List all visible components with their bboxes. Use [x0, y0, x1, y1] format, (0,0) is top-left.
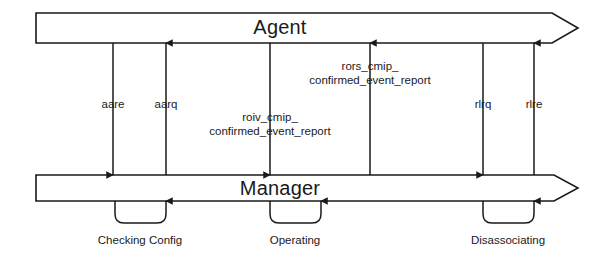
message-label-rlre: rlre	[526, 97, 543, 111]
message-label-roiv_cmip_confirmed_event_report: roiv_cmip_confirmed_event_report	[209, 110, 330, 138]
message-label-line: confirmed_event_report	[309, 73, 430, 87]
state-label-disassociating: Disassociating	[471, 234, 545, 246]
message-label-line: rors_cmip_	[309, 59, 430, 73]
message-label-line: rlre	[526, 97, 543, 111]
message-label-aare: aare	[101, 97, 124, 111]
message-label-rors_cmip_confirmed_event_report: rors_cmip_confirmed_event_report	[309, 59, 430, 87]
message-label-line: rlrq	[475, 97, 492, 111]
self-loop-checking-config	[115, 201, 166, 223]
agent-lane-title: Agent	[0, 16, 560, 39]
self-loop-disassociating	[483, 201, 534, 223]
message-label-line: roiv_cmip_	[209, 110, 330, 124]
message-label-aarq: aarq	[154, 97, 177, 111]
manager-lane-title: Manager	[0, 177, 560, 200]
self-loop-operating	[270, 201, 321, 223]
message-label-line: aare	[101, 97, 124, 111]
sequence-diagram: Agent Manager aareaarqroiv_cmip_confirme…	[0, 0, 609, 267]
state-self-loops	[115, 201, 534, 223]
message-label-line: confirmed_event_report	[209, 124, 330, 138]
state-label-operating: Operating	[270, 234, 321, 246]
message-label-rlrq: rlrq	[475, 97, 492, 111]
state-label-checking-config: Checking Config	[98, 234, 182, 246]
message-label-line: aarq	[154, 97, 177, 111]
